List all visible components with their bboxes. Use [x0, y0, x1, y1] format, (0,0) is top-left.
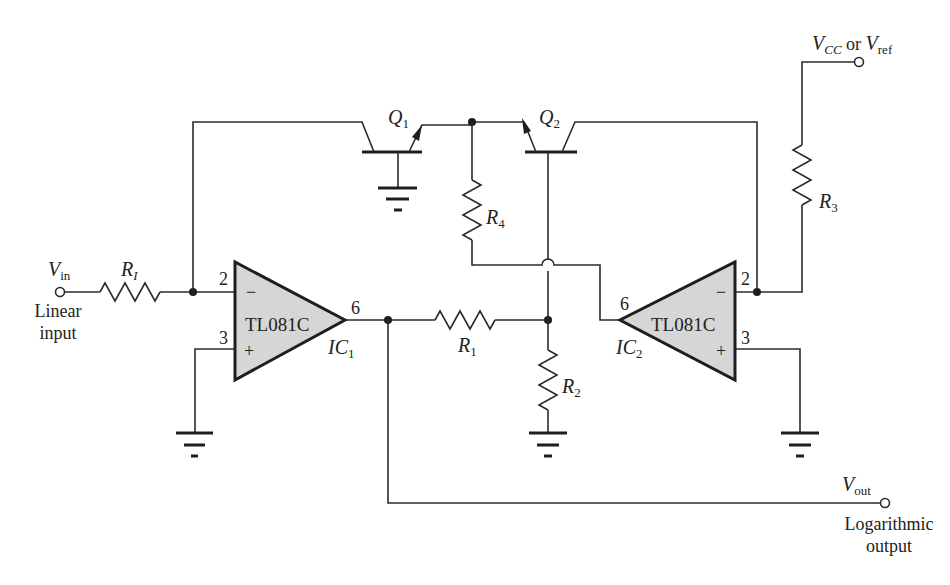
r2-label: R2	[561, 375, 581, 400]
q1-emitter-arrow-icon	[412, 125, 422, 141]
ic2-pin-6: 6	[620, 294, 629, 314]
resistor-r4	[463, 180, 481, 240]
transistor-q1: Q1	[362, 106, 472, 210]
supply-label: VCC or Vref	[812, 32, 893, 57]
r3-label: R3	[818, 190, 838, 215]
resistor-r3	[793, 145, 811, 205]
opamp-ic2: − + TL081C 2 3 6 IC2	[615, 262, 750, 380]
wire-r4-ic2-output	[472, 240, 620, 320]
log-amplifier-schematic: Vin Linear input RI − + TL081C 2 3 6 IC1	[0, 0, 950, 585]
vout-label: Vout	[842, 473, 871, 498]
ic1-minus-sign: −	[246, 282, 256, 302]
q2-label: Q2	[539, 106, 560, 131]
r4-label: R4	[485, 206, 505, 231]
vin-label: Vin	[48, 258, 71, 283]
ground-symbol-ic2	[781, 433, 819, 456]
input-caption-line2: input	[39, 323, 76, 343]
vin-terminal[interactable]	[56, 288, 65, 297]
ic1-part-number: TL081C	[245, 314, 309, 335]
ic1-pin-6: 6	[351, 298, 360, 318]
input-caption-line1: Linear	[35, 301, 82, 321]
vcc-vref-terminal[interactable]	[855, 58, 864, 67]
resistor-r1	[435, 311, 495, 329]
ic2-pin-3: 3	[741, 328, 750, 348]
r1-label: R1	[457, 334, 477, 359]
ic2-part-number: TL081C	[651, 314, 715, 335]
output-caption-line2: output	[866, 536, 912, 556]
output-terminal-group: Vout Logarithmic output	[842, 473, 933, 556]
ground-symbol-ic1	[176, 433, 213, 456]
wire-feedback-q1-collector	[193, 122, 374, 292]
ic2-pin-2: 2	[741, 269, 750, 289]
transistor-q2: Q2	[522, 106, 757, 292]
wire-ic2-noninv-ground	[735, 349, 800, 433]
q1-label: Q1	[388, 106, 409, 131]
ri-label: RI	[120, 258, 138, 283]
q2-emitter-arrow-icon	[522, 118, 531, 134]
junction-ic2-inverting	[753, 288, 761, 296]
vout-terminal[interactable]	[881, 499, 890, 508]
ic1-plus-sign: +	[244, 341, 254, 361]
ic2-minus-sign: −	[716, 282, 726, 302]
resistor-r2	[539, 350, 557, 410]
input-terminal-group: Vin Linear input	[35, 258, 82, 343]
resistor-ri	[100, 283, 160, 301]
ground-symbol-r2	[529, 433, 567, 456]
ic1-pin-3: 3	[219, 328, 228, 348]
output-caption-line1: Logarithmic	[845, 514, 934, 534]
ic1-ref-label: IC1	[327, 336, 355, 361]
wire-r3-supply	[802, 62, 855, 145]
wire-ic1-noninv-ground	[195, 349, 235, 433]
ic1-pin-2: 2	[219, 269, 228, 289]
opamp-ic1: − + TL081C 2 3 6 IC1	[219, 262, 360, 380]
ic2-ref-label: IC2	[615, 336, 643, 361]
ic2-plus-sign: +	[716, 341, 726, 361]
